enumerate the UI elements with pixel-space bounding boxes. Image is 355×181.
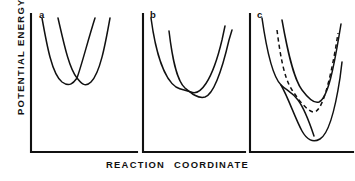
panel-c-curve-left — [262, 18, 314, 136]
panel-a-axes — [31, 14, 137, 152]
figure-canvas: a b c — [0, 0, 355, 181]
panel-b-axes — [143, 14, 245, 152]
panel-a-curve-right — [58, 18, 110, 85]
panel-label-b: b — [150, 9, 156, 20]
panel-c-curve-upper-right — [282, 20, 341, 102]
potential-energy-figure: a b c POTENTIAL ENERGY REACTIONCOORDINAT… — [0, 0, 355, 181]
panel-a-curve-left — [42, 18, 95, 85]
x-axis-label: REACTIONCOORDINATE — [0, 160, 355, 169]
y-axis-label: POTENTIAL ENERGY — [16, 0, 25, 122]
panel-label-a: a — [39, 9, 45, 20]
x-axis-label-word-2: COORDINATE — [174, 159, 249, 170]
panel-label-c: c — [257, 9, 262, 20]
x-axis-label-word-1: REACTION — [106, 159, 165, 170]
panel-b-curve-left — [151, 18, 225, 93]
